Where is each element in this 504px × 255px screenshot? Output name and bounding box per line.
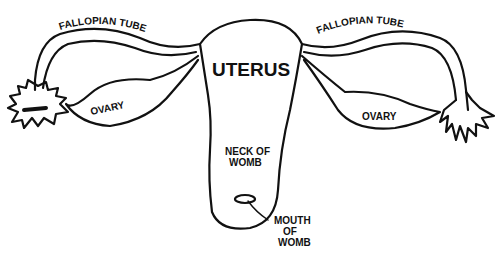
pointer-line bbox=[248, 201, 268, 220]
label-ovary-left: OVARY bbox=[89, 99, 125, 117]
label-mouth-of-womb-3: WOMB bbox=[278, 237, 311, 248]
mouth-of-womb bbox=[235, 195, 255, 203]
label-mouth-of-womb-2: OF bbox=[283, 226, 297, 237]
uterus-diagram: FALLOPIAN TUBE FALLOPIAN TUBE UTERUS OVA… bbox=[0, 0, 504, 255]
label-ovary-right: OVARY bbox=[362, 111, 397, 122]
right-fallopian-tube bbox=[302, 31, 468, 110]
uterus-outline bbox=[200, 20, 302, 229]
left-ovary bbox=[66, 56, 198, 126]
label-neck-of-womb-1: NECK OF bbox=[225, 146, 270, 157]
left-fimbriae bbox=[8, 80, 68, 128]
label-mouth-of-womb-1: MOUTH bbox=[274, 215, 311, 226]
label-uterus: UTERUS bbox=[212, 59, 290, 80]
label-neck-of-womb-2: WOMB bbox=[229, 157, 262, 168]
